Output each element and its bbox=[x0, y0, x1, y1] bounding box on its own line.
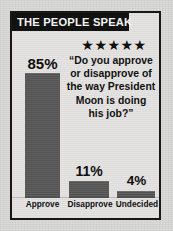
five-stars-icon: ★★★★★ bbox=[74, 38, 154, 52]
bar-value-disapprove: 11% bbox=[68, 164, 110, 179]
question-line-1: “Do you approve bbox=[65, 54, 156, 67]
axis-baseline bbox=[12, 197, 159, 198]
title-banner: THE PEOPLE SPEAK bbox=[12, 13, 129, 31]
bar-value-undecided: 4% bbox=[117, 173, 156, 188]
question-line-5: his job?” bbox=[65, 107, 156, 120]
question-line-4: Moon is doing bbox=[65, 94, 156, 107]
page-title: THE PEOPLE SPEAK bbox=[17, 16, 132, 28]
question-line-3: the way President bbox=[65, 80, 156, 93]
category-label-undecided: Undecided bbox=[116, 199, 157, 209]
category-label-disapprove: Disapprove bbox=[66, 199, 114, 209]
bar-approve bbox=[25, 73, 60, 198]
question-line-2: or disapprove of bbox=[65, 67, 156, 80]
bar-disapprove bbox=[69, 181, 109, 198]
poll-question: “Do you approve or disapprove of the way… bbox=[65, 54, 156, 120]
bar-value-approve: 85% bbox=[22, 56, 63, 71]
category-label-approve: Approve bbox=[22, 199, 63, 209]
poll-graphic: THE PEOPLE SPEAK ★★★★★ “Do you approve o… bbox=[0, 0, 173, 231]
